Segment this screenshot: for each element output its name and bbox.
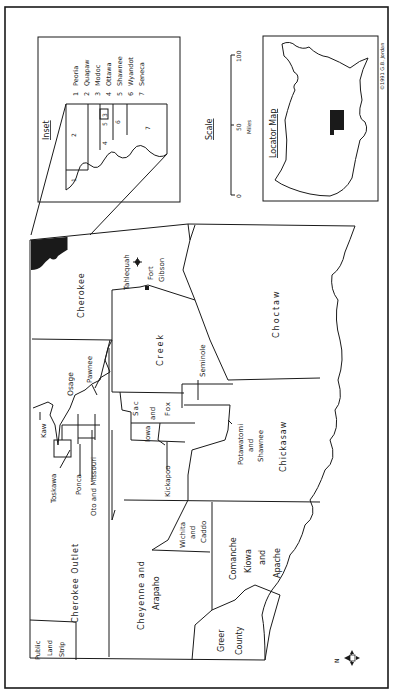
label-ponca: Ponca [75,474,83,495]
inset-num-1: 1 [70,178,77,182]
inset-num-5: 5 [101,122,108,126]
label-public-land-strip-3: Strip [58,642,66,657]
label-cheyenne-2: Arapaho [152,576,161,610]
label-greer-2: County [235,626,244,655]
inset-num-4: 4 [101,141,108,145]
label-potawatomi-2: and [247,439,255,452]
label-iowa: Iowa [144,426,152,442]
scale-title: Scale [205,118,214,140]
label-toskawa: Toskawa [50,474,58,504]
label-comanche-4: Apache [273,548,282,578]
label-osage: Osage [66,372,75,396]
inset-panel: Inset 1 2 3 4 5 6 7 1 Peoria 2 Quapaw 3 … [38,37,180,202]
label-fort-gibson-1: Fort [147,266,155,280]
svg-text:7: 7 [138,92,146,96]
label-potawatomi-3: Shawnee [257,430,265,462]
svg-text:3: 3 [94,92,102,96]
svg-text:Quapaw: Quapaw [83,59,91,86]
compass-rose: N [333,650,360,666]
scale-unit: Miles [246,120,252,134]
inset-num-6: 6 [114,120,121,124]
label-sac-3: Fox [164,401,172,416]
svg-text:2: 2 [83,92,91,96]
inset-title: Inset [42,120,51,140]
label-pawnee: Pawnee [86,356,94,383]
label-creek: Creek [156,333,165,366]
compass-north-label: N [333,659,340,664]
label-sac-2: and [149,407,157,420]
main-map: Public Land Strip Cherokee Outlet Cherok… [30,224,355,660]
label-seminole: Seminole [199,345,207,377]
svg-text:Modoc: Modoc [94,64,102,86]
map-credit: ©1991 G.B. Jordan [379,43,385,90]
scale-tick-50: 50 [235,123,242,131]
locator-panel: Locator Map [263,36,378,201]
scale-tick-0: 0 [235,194,242,198]
svg-text:Wyandot: Wyandot [127,57,135,86]
svg-text:1: 1 [72,92,80,96]
svg-text:6: 6 [127,92,135,96]
label-wichita-1: Wichita [179,522,187,548]
inset-num-3: 3 [101,113,108,117]
svg-text:Peoria: Peoria [72,66,80,86]
inset-legend: 1 Peoria 2 Quapaw 3 Modoc 4 Ottawa 5 Sha… [72,56,146,96]
svg-text:Shawnee: Shawnee [116,56,124,86]
tahlequah-marker [133,258,142,267]
label-kaw: Kaw [40,423,48,438]
usa-outline [275,42,368,196]
locator-title: Locator Map [269,109,278,158]
label-comanche-2: Kiowa [244,549,253,573]
label-cherokee: Cherokee [77,272,86,318]
label-cheyenne-1: Cheyenne and [137,560,146,630]
svg-text:5: 5 [116,92,124,96]
scale-bar: Scale 0 50 100 Miles [205,50,252,198]
label-greer-1: Greer [217,629,226,652]
label-sac-1: Sac [132,400,140,416]
svg-text:Seneca: Seneca [138,62,146,86]
inset-num-2: 2 [70,133,77,137]
svg-text:4: 4 [105,92,113,96]
scale-tick-100: 100 [235,50,242,62]
label-wichita-3: Caddo [200,521,208,543]
label-fort-gibson-2: Gibson [158,258,166,282]
label-wichita-2: and [189,526,197,539]
label-tahlequah: Tahlequah [123,254,131,291]
label-kickapoo: Kickapoo [164,465,172,497]
map-frame [5,7,388,688]
label-public-land-strip-2: Land [46,640,54,656]
label-cherokee-outlet: Cherokee Outlet [71,543,80,623]
label-oto-missouri: Oto and Missouri [90,457,98,516]
indian-territory-map: Inset 1 2 3 4 5 6 7 1 Peoria 2 Quapaw 3 … [0,0,403,694]
fort-gibson-marker [145,286,149,290]
label-public-land-strip-1: Public [34,640,42,660]
label-comanche-1: Comanche [229,537,238,580]
label-comanche-3: and [258,550,267,565]
label-choctaw: Choctaw [272,289,281,338]
label-potawatomi-1: Potawatomi [237,424,245,465]
svg-text:Ottawa: Ottawa [105,62,113,86]
inset-num-7: 7 [144,126,151,130]
label-chickasaw: Chickasaw [279,421,288,472]
